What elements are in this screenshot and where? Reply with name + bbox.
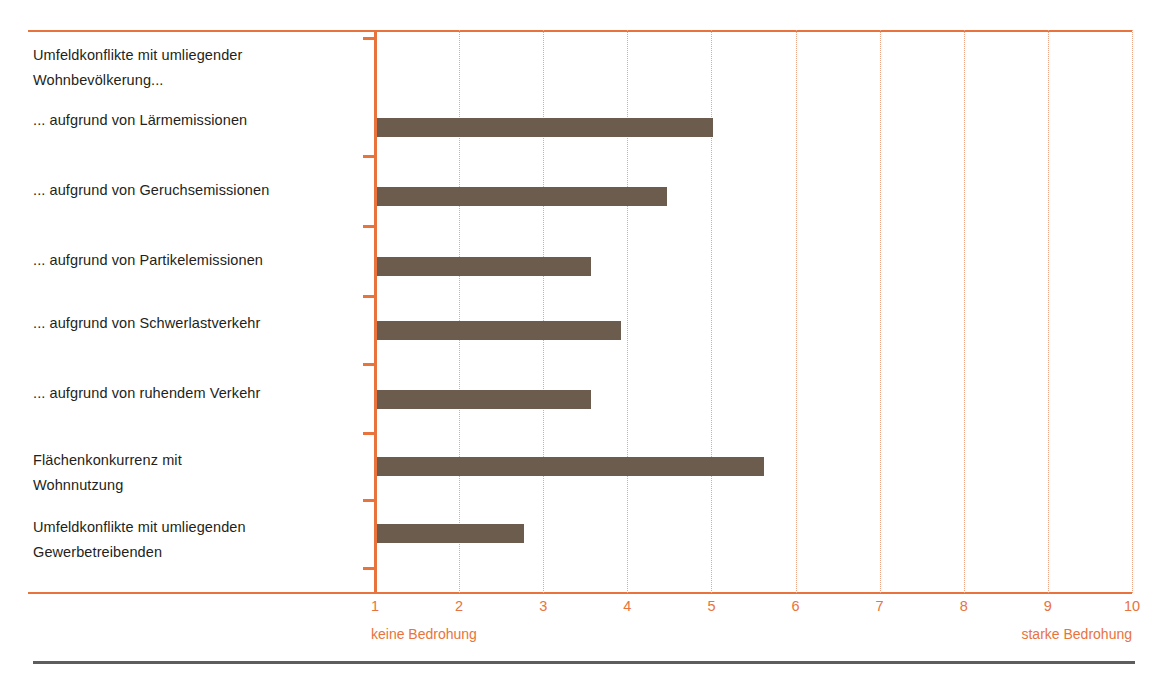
y-tick-6 <box>363 567 375 570</box>
bar-6 <box>377 524 524 543</box>
bar-2 <box>377 257 591 276</box>
category-label-5: Flächenkonkurrenz mitWohnnutzung <box>33 448 368 498</box>
clipped-title-fragment <box>28 0 1128 1</box>
x-tick-label-8: 8 <box>944 598 984 614</box>
gridline-7 <box>880 30 881 593</box>
x-tick-label-9: 9 <box>1028 598 1068 614</box>
gridline-9 <box>1048 30 1049 593</box>
category-label-line: ... aufgrund von Partikelemissionen <box>33 248 368 273</box>
bar-5 <box>377 457 764 476</box>
x-tick-label-4: 4 <box>607 598 647 614</box>
category-label-line: ... aufgrund von Lärmemissionen <box>33 108 368 133</box>
plot-area <box>375 30 1132 593</box>
y-tick-1 <box>363 225 375 228</box>
category-label-line: Gewerbetreibenden <box>33 540 368 565</box>
category-label-6: Umfeldkonflikte mit umliegendenGewerbetr… <box>33 515 368 565</box>
bar-4 <box>377 390 591 409</box>
x-tick-label-6: 6 <box>776 598 816 614</box>
y-tick-0 <box>363 155 375 158</box>
category-label-2: ... aufgrund von Partikelemissionen <box>33 248 368 273</box>
y-tick-5 <box>363 499 375 502</box>
bar-0 <box>377 118 713 137</box>
x-tick-label-1: 1 <box>355 598 395 614</box>
category-label-1: ... aufgrund von Geruchsemissionen <box>33 178 368 203</box>
x-tick-label-2: 2 <box>439 598 479 614</box>
gridline-2 <box>459 30 460 593</box>
x-tick-label-5: 5 <box>691 598 731 614</box>
gridline-8 <box>964 30 965 593</box>
category-label-4: ... aufgrund von ruhendem Verkehr <box>33 381 368 406</box>
y-tick-2 <box>363 295 375 298</box>
group-header-line: Umfeldkonflikte mit umliegender <box>33 43 368 68</box>
category-label-line: ... aufgrund von Schwerlastverkehr <box>33 311 368 336</box>
category-label-line: Umfeldkonflikte mit umliegenden <box>33 515 368 540</box>
category-label-line: ... aufgrund von Geruchsemissionen <box>33 178 368 203</box>
gridline-4 <box>627 30 628 593</box>
group-header-line: Wohnbevölkerung... <box>33 68 368 93</box>
scale-anchor-high: starke Bedrohung <box>1021 626 1132 642</box>
x-tick-label-10: 10 <box>1112 598 1152 614</box>
gridline-3 <box>543 30 544 593</box>
bar-3 <box>377 321 621 340</box>
x-tick-label-7: 7 <box>860 598 900 614</box>
y-tick-4 <box>363 432 375 435</box>
category-label-3: ... aufgrund von Schwerlastverkehr <box>33 311 368 336</box>
category-label-line: Flächenkonkurrenz mit <box>33 448 368 473</box>
gridline-5 <box>711 30 712 593</box>
gridline-6 <box>796 30 797 593</box>
chart-figure: Umfeldkonflikte mit umliegenderWohnbevöl… <box>0 0 1168 680</box>
group-header-0: Umfeldkonflikte mit umliegenderWohnbevöl… <box>33 43 368 93</box>
category-label-0: ... aufgrund von Lärmemissionen <box>33 108 368 133</box>
bar-1 <box>377 187 667 206</box>
scale-anchor-low: keine Bedrohung <box>371 626 477 642</box>
gridline-10 <box>1132 30 1133 593</box>
footer-rule <box>33 661 1135 664</box>
y-tick-3 <box>363 363 375 366</box>
y-tick-7 <box>363 37 375 40</box>
category-label-line: ... aufgrund von ruhendem Verkehr <box>33 381 368 406</box>
category-label-line: Wohnnutzung <box>33 473 368 498</box>
x-tick-label-3: 3 <box>523 598 563 614</box>
